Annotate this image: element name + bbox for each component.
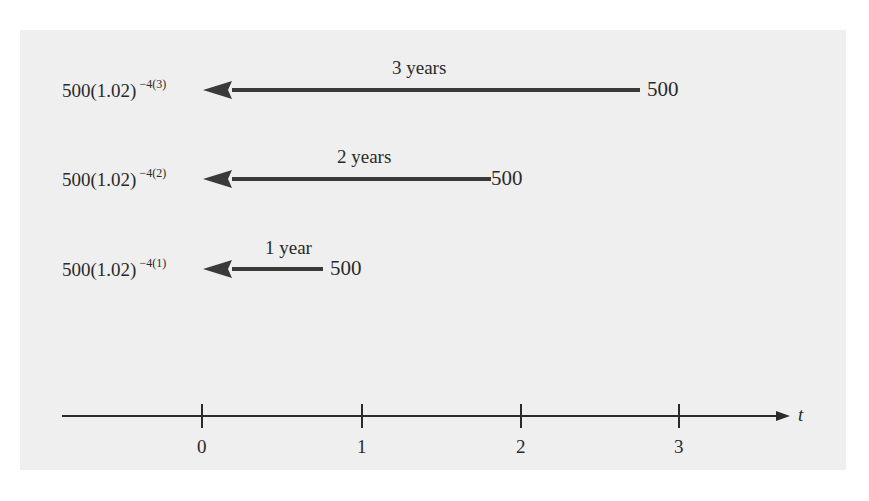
time-axis bbox=[62, 404, 790, 428]
duration-label-2-years: 2 years bbox=[337, 147, 391, 166]
present-value-label-3: 500(1.02)−4(3) bbox=[62, 80, 166, 100]
future-value-label-2: 500 bbox=[491, 168, 523, 189]
discount-arrow-1-year bbox=[203, 260, 323, 278]
duration-label-3-years: 3 years bbox=[392, 58, 446, 77]
discount-arrow-3-years bbox=[203, 81, 640, 99]
future-value-label-3: 500 bbox=[647, 79, 679, 100]
tick-label-3: 3 bbox=[674, 437, 684, 456]
present-value-label-2: 500(1.02)−4(2) bbox=[62, 169, 166, 189]
present-value-exponent: −4(1) bbox=[139, 256, 166, 270]
present-value-base: 500(1.02) bbox=[62, 259, 136, 280]
present-value-label-1: 500(1.02)−4(1) bbox=[62, 259, 166, 279]
present-value-base: 500(1.02) bbox=[62, 169, 136, 190]
tick-label-1: 1 bbox=[357, 437, 367, 456]
duration-label-1-year: 1 year bbox=[265, 238, 312, 257]
tick-label-0: 0 bbox=[197, 437, 207, 456]
present-value-base: 500(1.02) bbox=[62, 80, 136, 101]
present-value-exponent: −4(2) bbox=[139, 166, 166, 180]
axis-variable-t: t bbox=[798, 405, 803, 424]
future-value-label-1: 500 bbox=[330, 258, 362, 279]
tick-label-2: 2 bbox=[516, 437, 526, 456]
discount-arrow-2-years bbox=[203, 170, 491, 188]
present-value-exponent: −4(3) bbox=[139, 77, 166, 91]
